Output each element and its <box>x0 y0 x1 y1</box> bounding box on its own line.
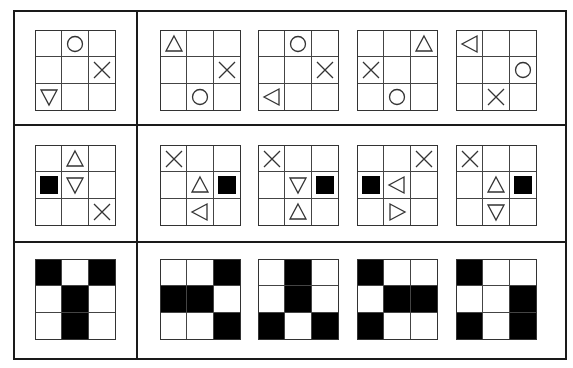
grid-cell <box>483 286 509 312</box>
grid-cell <box>384 146 410 172</box>
grid-cell <box>358 286 384 312</box>
row-divider-2 <box>13 241 566 243</box>
grid-cell <box>214 146 240 172</box>
grid-cell <box>214 31 240 57</box>
row-2-symbols-option-c[interactable] <box>357 145 438 226</box>
row-3-fills-option-b[interactable] <box>258 259 339 340</box>
grid-cell <box>358 57 384 83</box>
grid-cell <box>161 84 187 110</box>
row-3-fills-option-a[interactable] <box>160 259 241 340</box>
grid-cell <box>285 199 311 225</box>
triangle-up-icon <box>163 33 185 55</box>
grid-cell <box>457 286 483 312</box>
grid-cell <box>161 146 187 172</box>
filled-cell <box>187 286 213 312</box>
filled-cell <box>285 286 311 312</box>
grid-cell <box>411 146 437 172</box>
filled-cell <box>411 286 437 312</box>
filled-cell <box>89 260 115 286</box>
row-2-symbols-option-a[interactable] <box>160 145 241 226</box>
grid-cell <box>89 172 115 198</box>
grid-cell <box>62 84 88 110</box>
filled-cell <box>457 260 483 286</box>
grid-cell <box>62 31 88 57</box>
grid-cell <box>161 31 187 57</box>
grid-cell <box>62 146 88 172</box>
grid-cell <box>161 57 187 83</box>
grid-cell <box>187 31 213 57</box>
triangle-up-icon <box>287 201 309 223</box>
grid-cell <box>384 84 410 110</box>
triangle-up-icon <box>189 174 211 196</box>
triangle-up-icon <box>485 174 507 196</box>
grid-cell <box>483 31 509 57</box>
grid-cell <box>384 31 410 57</box>
grid-cell <box>285 313 311 339</box>
triangle-down-icon <box>38 86 60 108</box>
grid-cell <box>285 31 311 57</box>
x-icon <box>261 148 283 170</box>
grid-cell <box>62 199 88 225</box>
grid-cell <box>457 57 483 83</box>
row-1-symbols-option-a[interactable] <box>160 30 241 111</box>
filled-cell <box>358 313 384 339</box>
grid-cell <box>411 313 437 339</box>
filled-cell <box>285 260 311 286</box>
grid-cell <box>384 313 410 339</box>
row-1-symbols-option-b[interactable] <box>258 30 339 111</box>
row-1-symbols-option-d[interactable] <box>456 30 537 111</box>
grid-cell <box>483 57 509 83</box>
triangle-up-icon <box>64 148 86 170</box>
grid-cell <box>457 84 483 110</box>
row-3-fills-option-d[interactable] <box>456 259 537 340</box>
filled-cell <box>358 260 384 286</box>
row-2-symbols-question-grid <box>35 145 116 226</box>
triangle-up-icon <box>413 33 435 55</box>
filled-cell <box>62 313 88 339</box>
grid-cell <box>411 57 437 83</box>
grid-cell <box>259 57 285 83</box>
grid-cell <box>384 260 410 286</box>
grid-cell <box>285 57 311 83</box>
grid-cell <box>187 146 213 172</box>
grid-cell <box>161 199 187 225</box>
grid-cell <box>384 199 410 225</box>
x-icon <box>485 86 507 108</box>
filled-cell <box>214 313 240 339</box>
row-3-fills-option-c[interactable] <box>357 259 438 340</box>
filled-cell <box>312 313 338 339</box>
row-2-symbols-option-b[interactable] <box>258 145 339 226</box>
filled-cell <box>384 286 410 312</box>
grid-cell <box>89 31 115 57</box>
circle-icon <box>386 86 408 108</box>
grid-cell <box>161 260 187 286</box>
grid-cell <box>36 84 62 110</box>
grid-cell <box>187 199 213 225</box>
square-icon <box>360 174 382 196</box>
grid-cell <box>510 31 536 57</box>
row-1-symbols-question-grid <box>35 30 116 111</box>
grid-cell <box>36 313 62 339</box>
grid-cell <box>36 172 62 198</box>
row-2-symbols-option-d[interactable] <box>456 145 537 226</box>
triangle-down-icon <box>287 174 309 196</box>
grid-cell <box>89 286 115 312</box>
grid-cell <box>312 31 338 57</box>
row-3-fills-question-grid <box>35 259 116 340</box>
filled-cell <box>510 313 536 339</box>
circle-icon <box>64 33 86 55</box>
grid-cell <box>510 199 536 225</box>
x-icon <box>360 59 382 81</box>
grid-cell <box>62 172 88 198</box>
square-icon <box>512 174 534 196</box>
circle-icon <box>189 86 211 108</box>
triangle-left-icon <box>189 201 211 223</box>
grid-cell <box>89 199 115 225</box>
triangle-left-icon <box>261 86 283 108</box>
row-1-symbols-option-c[interactable] <box>357 30 438 111</box>
grid-cell <box>510 146 536 172</box>
filled-cell <box>259 313 285 339</box>
grid-cell <box>483 146 509 172</box>
grid-cell <box>285 84 311 110</box>
grid-cell <box>358 146 384 172</box>
